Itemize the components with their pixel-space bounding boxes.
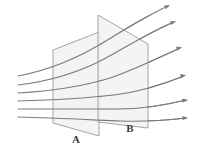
plane-a-group bbox=[53, 32, 99, 136]
flux-diagram-canvas: AB bbox=[0, 0, 200, 150]
field-line-1-arrowhead bbox=[164, 5, 170, 9]
field-line-5-arrowhead bbox=[182, 99, 188, 103]
arrow-heads-group bbox=[164, 5, 188, 120]
plane-b-group bbox=[98, 15, 148, 128]
plane-b-surface bbox=[98, 15, 148, 128]
field-line-4-arrowhead bbox=[180, 74, 186, 78]
field-line-6-arrowhead bbox=[182, 116, 188, 120]
flux-diagram-figure: AB bbox=[0, 0, 200, 150]
plane-a-label: A bbox=[72, 133, 80, 145]
plane-b-label: B bbox=[126, 122, 134, 134]
field-line-2-arrowhead bbox=[170, 21, 176, 25]
plane-a-surface bbox=[53, 32, 99, 136]
field-line-3-arrowhead bbox=[176, 47, 182, 51]
